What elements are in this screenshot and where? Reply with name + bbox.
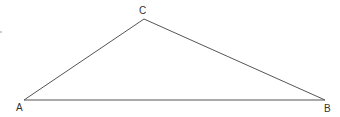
edge-bc bbox=[144, 19, 325, 100]
stray-dot bbox=[0, 31, 2, 33]
edge-ca bbox=[24, 19, 144, 100]
triangle-diagram: A B C bbox=[0, 0, 340, 117]
vertex-label-c: C bbox=[139, 5, 146, 16]
vertex-label-a: A bbox=[16, 102, 23, 113]
vertex-label-b: B bbox=[324, 103, 331, 114]
